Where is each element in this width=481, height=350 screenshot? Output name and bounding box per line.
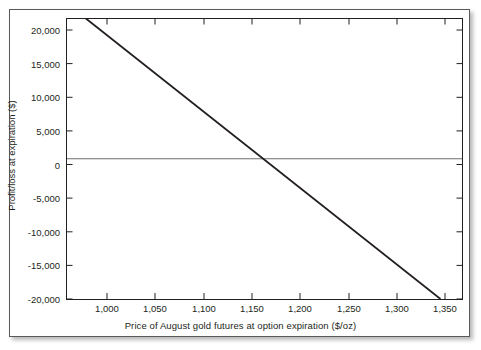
x-axis-ticks-top: [107, 19, 445, 25]
y-axis-title: Profit/loss at expiration ($): [6, 100, 17, 210]
x-tick-label: 1,250: [337, 303, 361, 314]
x-tick-label: 1,200: [288, 303, 312, 314]
x-axis-ticks: [107, 293, 445, 299]
x-tick-label: 1,350: [433, 303, 457, 314]
x-tick-label: 1,100: [192, 303, 216, 314]
x-tick-label: 1,000: [95, 303, 119, 314]
x-axis-title: Price of August gold futures at option e…: [0, 320, 481, 331]
y-axis-ticks-right: [457, 30, 463, 299]
x-tick-label: 1,300: [385, 303, 409, 314]
x-tick-label: 1,150: [240, 303, 264, 314]
y-axis-ticks: [67, 30, 73, 299]
y-axis-title-container: Profit/loss at expiration ($): [0, 0, 22, 310]
chart-plot: [0, 0, 481, 350]
x-tick-label: 1,050: [143, 303, 167, 314]
